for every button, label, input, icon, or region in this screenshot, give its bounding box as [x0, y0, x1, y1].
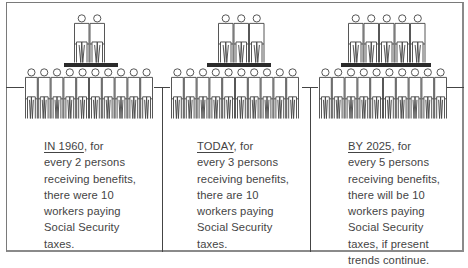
caption-line: receiving benefits,: [197, 171, 289, 187]
caption-line: taxes.: [44, 236, 136, 252]
workers-group-icon: [24, 68, 154, 120]
caption-line: there are 10: [197, 187, 289, 203]
caption-line: taxes.: [197, 236, 289, 252]
caption-line: every 3 persons: [197, 154, 289, 170]
beneficiaries-group-icon: [73, 14, 109, 64]
platform-bar: [64, 63, 118, 67]
caption-line: Social Security: [348, 219, 440, 235]
caption-line: every 2 persons: [44, 154, 136, 170]
caption-today: TODAY, for every 3 persons receiving ben…: [197, 138, 289, 252]
caption-line: there will be 10: [348, 187, 440, 203]
platform-bar: [341, 63, 431, 67]
panel-connector-line: [447, 87, 464, 88]
caption-line: taxes, if present: [348, 236, 440, 252]
caption-line: there were 10: [44, 187, 136, 203]
caption-line: receiving benefits,: [44, 171, 136, 187]
caption-line: Social Security: [44, 219, 136, 235]
caption-lead: IN 1960: [44, 140, 84, 152]
panel-divider: [162, 87, 163, 252]
platform-bar: [207, 63, 271, 67]
caption-line: workers paying: [197, 203, 289, 219]
caption-line: trends continue.: [348, 252, 440, 268]
caption-line: every 5 persons: [348, 154, 440, 170]
caption-line: Social Security: [197, 219, 289, 235]
panel-divider: [310, 87, 311, 252]
panel-connector-line: [6, 87, 24, 88]
beneficiaries-group-icon: [347, 14, 427, 64]
caption-lead: TODAY: [197, 140, 234, 152]
workers-group-icon: [318, 68, 448, 120]
beneficiaries-group-icon: [217, 14, 267, 64]
caption-lead: BY 2025: [348, 140, 391, 152]
caption-2025: BY 2025, for every 5 persons receiving b…: [348, 138, 440, 268]
caption-line: workers paying: [44, 203, 136, 219]
caption-line: receiving benefits,: [348, 171, 440, 187]
workers-group-icon: [170, 68, 300, 120]
caption-line: workers paying: [348, 203, 440, 219]
caption-1960: IN 1960, for every 2 persons receiving b…: [44, 138, 136, 252]
